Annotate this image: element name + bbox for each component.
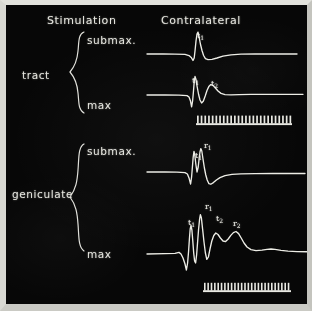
trace-tract-max: [145, 68, 307, 118]
peak-label-geniculate-max-r1: r1: [205, 202, 213, 211]
group-label-tract: tract: [22, 69, 50, 81]
level-label-tract-max: max: [87, 99, 112, 111]
group-label-geniculate: geniculate: [12, 188, 73, 200]
level-label-geniculate-submax: submax.: [87, 145, 136, 157]
level-label-geniculate-max: max: [87, 248, 112, 260]
level-label-tract-submax: submax.: [87, 34, 136, 46]
figure-plate: Stimulation Contralateral tract submax. …: [0, 0, 312, 311]
peak-label-tract-max-t2: t2: [211, 79, 218, 88]
peak-label-geniculate-submax-t1: t1: [195, 151, 202, 160]
trace-tract-submax: [145, 29, 305, 69]
brace-geniculate: [68, 143, 90, 253]
column-header-contralateral: Contralateral: [161, 14, 241, 27]
peak-label-geniculate-submax-r1: r1: [204, 141, 212, 150]
column-header-stimulation: Stimulation: [47, 14, 117, 27]
peak-label-tract-max-t1: t1: [192, 76, 199, 85]
peak-label-geniculate-max-r2: r2: [233, 219, 241, 228]
peak-label-geniculate-max-t2: t2: [216, 214, 223, 223]
peak-label-geniculate-max-t1: t1: [188, 218, 195, 227]
timebar-tract: [196, 114, 294, 126]
trace-geniculate-submax: [145, 139, 307, 194]
peak-label-tract-submax-t1: t1: [197, 31, 204, 40]
trace-geniculate-max: [145, 201, 307, 279]
plate-inner: Stimulation Contralateral tract submax. …: [6, 5, 307, 304]
timebar-geniculate: [203, 281, 293, 293]
